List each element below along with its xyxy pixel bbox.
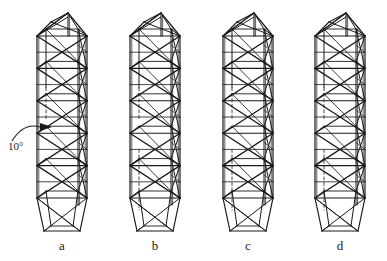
angle-annotation-label: 10° [8,140,23,152]
cap-edge-back-left [324,13,346,29]
tower-d [315,13,365,231]
cap-edge-back-left [232,13,254,29]
cap-ridge [329,13,346,22]
cap-ridge [144,13,161,22]
cap-edge-back-left [46,13,68,29]
leader-curve [12,126,40,141]
tower-label-d: d [325,238,355,254]
tower-b [130,13,180,231]
truss-drawing-canvas [0,0,387,261]
truss-tower-figure: 10° a b c d [0,0,387,261]
tower-label-b: b [140,238,170,254]
tower-label-a: a [47,238,77,254]
tower-c [223,13,273,231]
tower-label-c: c [233,238,263,254]
cap-ridge [51,13,68,22]
tower-a [37,13,87,231]
cap-ridge [237,13,254,22]
cap-edge-back-left [139,13,161,29]
